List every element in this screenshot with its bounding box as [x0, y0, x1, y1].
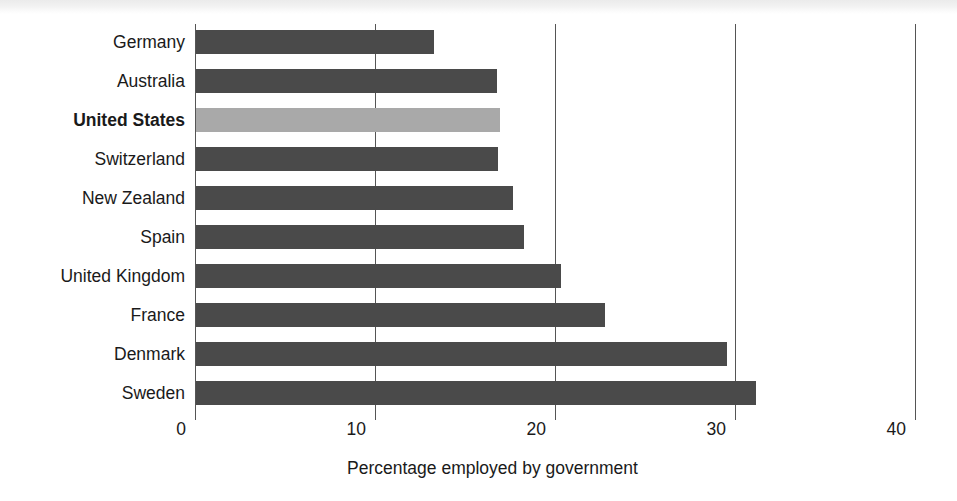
bar-switzerland[interactable] — [196, 147, 498, 171]
bar-france[interactable] — [196, 303, 605, 327]
x-axis-title: Percentage employed by government — [0, 458, 957, 479]
bar-spain[interactable] — [196, 225, 524, 249]
bar-united-kingdom[interactable] — [196, 264, 561, 288]
category-label-switzerland: Switzerland — [0, 147, 198, 171]
category-label-germany: Germany — [0, 30, 198, 54]
bar-new-zealand[interactable] — [196, 186, 513, 210]
bar-germany[interactable] — [196, 30, 434, 54]
category-label-australia: Australia — [0, 69, 198, 93]
x-axis-title-text: Percentage employed by government — [347, 458, 638, 479]
bar-chart: GermanyAustraliaUnited StatesSwitzerland… — [0, 0, 957, 501]
x-tick-label-20: 20 — [527, 419, 555, 439]
category-axis-labels: GermanyAustraliaUnited StatesSwitzerland… — [0, 24, 185, 420]
category-label-new-zealand: New Zealand — [0, 186, 198, 210]
x-tick-label-10: 10 — [347, 419, 375, 439]
category-label-france: France — [0, 303, 198, 327]
bar-sweden[interactable] — [196, 381, 756, 405]
gridline-30 — [735, 24, 736, 420]
plot-area — [195, 24, 915, 420]
bar-united-states[interactable] — [196, 108, 500, 132]
category-label-sweden: Sweden — [0, 381, 198, 405]
gridline-40 — [915, 24, 916, 420]
bar-denmark[interactable] — [196, 342, 727, 366]
category-label-united-states: United States — [0, 108, 198, 132]
category-label-spain: Spain — [0, 225, 198, 249]
category-label-denmark: Denmark — [0, 342, 198, 366]
bar-australia[interactable] — [196, 69, 497, 93]
x-tick-label-0: 0 — [176, 419, 195, 439]
x-tick-label-30: 30 — [707, 419, 735, 439]
category-label-united-kingdom: United Kingdom — [0, 264, 198, 288]
x-tick-label-40: 40 — [887, 419, 915, 439]
